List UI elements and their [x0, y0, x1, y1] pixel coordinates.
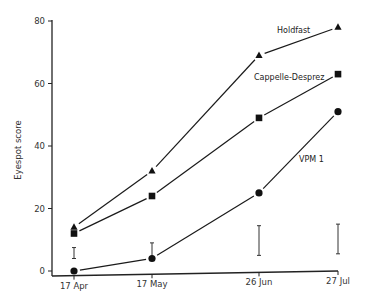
y-tick-label: 0 — [40, 266, 45, 276]
series-label-cappelle-desprez: Cappelle-Desprez — [254, 73, 324, 82]
square-marker-icon — [256, 115, 263, 122]
error-bar — [336, 224, 340, 254]
circle-marker-icon — [70, 267, 77, 274]
error-bars — [72, 224, 340, 258]
square-marker-icon — [149, 193, 156, 200]
series-cappelle-desprez — [71, 71, 342, 237]
y-tick-label: 20 — [34, 204, 45, 214]
series-vpm-1 — [70, 108, 341, 275]
circle-marker-icon — [148, 255, 155, 262]
circle-marker-icon — [255, 189, 262, 196]
x-tick-label: 26 Jun — [246, 277, 273, 287]
circle-marker-icon — [334, 108, 341, 115]
triangle-marker-icon — [70, 223, 77, 230]
y-tick-label: 60 — [34, 79, 45, 89]
x-tick-label: 17 May — [136, 279, 167, 289]
y-tick-label: 40 — [34, 141, 45, 151]
series-labels: Holdfast Cappelle-Desprez VPM 1 — [254, 26, 324, 164]
triangle-marker-icon — [148, 167, 155, 174]
y-ticks: 020406080 — [34, 16, 52, 276]
square-marker-icon — [71, 230, 78, 237]
series-holdfast — [70, 23, 341, 230]
triangle-marker-icon — [255, 51, 262, 58]
error-bar — [72, 248, 76, 259]
error-bar — [257, 226, 261, 256]
square-marker-icon — [335, 71, 342, 78]
triangle-marker-icon — [334, 23, 341, 30]
x-axis — [52, 271, 338, 276]
y-axis-title: Eyespot score — [13, 120, 23, 180]
series-label-holdfast: Holdfast — [277, 26, 310, 35]
eyespot-line-chart: 020406080 17 Apr17 May26 Jun27 Jul Eyesp… — [0, 0, 367, 306]
x-tick-label: 27 Jul — [326, 276, 350, 286]
series-label-vpm1: VPM 1 — [299, 155, 324, 164]
y-tick-label: 80 — [34, 16, 45, 26]
x-tick-label: 17 Apr — [60, 281, 89, 291]
series-lines — [70, 23, 341, 274]
